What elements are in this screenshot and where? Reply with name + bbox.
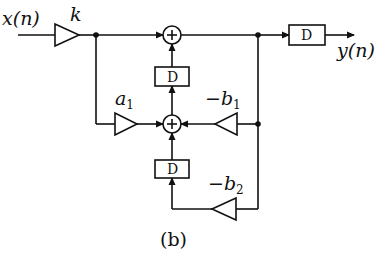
delay-top-label: D [167,70,178,84]
output-label: y(n) [337,41,375,60]
delay-bottom-label: D [167,162,178,176]
input-label: x(n) [2,9,40,28]
gain-a1-label: a1 [115,89,134,108]
block-diagram [0,0,384,260]
gain-a1-triangle [115,113,137,135]
junction-input [93,32,99,38]
gain-b2-label: −b2 [208,174,244,193]
delay-out-label: D [301,28,312,42]
junction-output [255,32,261,38]
gain-b2-triangle [212,198,236,220]
caption: (b) [160,230,187,249]
gain-k-label: k [70,5,82,24]
gain-b1-triangle [215,113,237,135]
gain-b1-label: −b1 [205,89,241,108]
junction-feedback [255,121,261,127]
gain-k-triangle [55,24,79,46]
